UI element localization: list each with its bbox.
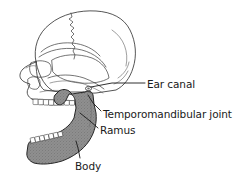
label-body: Body bbox=[75, 160, 101, 172]
cranium bbox=[35, 11, 135, 94]
skull-illustration bbox=[0, 0, 245, 184]
label-ramus: Ramus bbox=[100, 124, 135, 136]
anatomy-figure: Ear canal Temporomandibular joint Ramus … bbox=[0, 0, 245, 184]
label-temporomandibular-joint: Temporomandibular joint bbox=[103, 108, 232, 120]
label-ear-canal: Ear canal bbox=[147, 78, 195, 90]
